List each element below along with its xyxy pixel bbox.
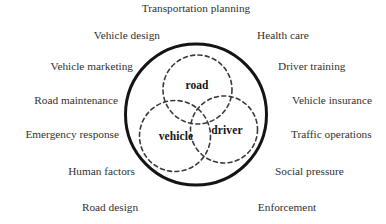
context-label-health-care: Health care [257,30,309,41]
set-label-road: road [185,79,208,91]
venn-diagram-graphic [0,0,386,224]
context-label-road-maintenance: Road maintenance [34,95,118,106]
context-label-vehicle-design: Vehicle design [94,30,160,41]
context-label-vehicle-insurance: Vehicle insurance [292,95,372,106]
context-label-road-design: Road design [82,202,138,213]
set-label-vehicle: vehicle [159,130,194,142]
context-label-transportation-planning: Transportation planning [142,3,250,14]
context-label-social-pressure: Social pressure [275,166,344,177]
context-label-emergency-response: Emergency response [25,129,119,140]
context-label-human-factors: Human factors [68,166,135,177]
context-label-vehicle-marketing: Vehicle marketing [51,61,134,72]
context-label-enforcement: Enforcement [258,202,316,213]
context-label-traffic-operations: Traffic operations [291,129,372,140]
venn-diagram-figure: road vehicle driver Transportation plann… [0,0,386,224]
set-label-driver: driver [211,124,242,136]
context-label-driver-training: Driver training [278,61,345,72]
